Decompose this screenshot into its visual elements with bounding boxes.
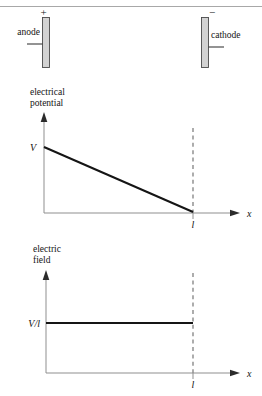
- potential-ytick-label-V: V: [30, 142, 38, 153]
- anode-polarity-sign: +: [40, 6, 46, 18]
- field-xaxis-label: x: [246, 368, 252, 379]
- cathode-label: cathode: [211, 30, 241, 40]
- diagram-canvas: + anode − cathode electrical potential: [0, 0, 262, 396]
- potential-y-axis-arrowhead: [41, 112, 48, 122]
- potential-chart: electrical potential V l x: [30, 87, 252, 230]
- anode-plate: [43, 18, 50, 68]
- potential-axis-title-line1: electrical: [30, 87, 65, 97]
- field-axis-title-line2: field: [33, 255, 51, 265]
- field-xtick-label-l: l: [192, 379, 195, 390]
- field-x-axis-arrowhead: [230, 370, 240, 377]
- field-axis-title-line1: electric: [33, 244, 61, 254]
- potential-xaxis-label: x: [246, 208, 252, 219]
- field-chart: electric field V/l l x: [28, 244, 252, 390]
- anode-label: anode: [17, 27, 40, 37]
- field-ytick-label-V-over-l: V/l: [28, 318, 40, 329]
- potential-axis-title-line2: potential: [30, 98, 64, 108]
- potential-xtick-label-l: l: [192, 219, 195, 230]
- cathode-polarity-sign: −: [209, 6, 215, 18]
- cathode-plate: [202, 18, 209, 68]
- field-y-axis-arrowhead: [43, 270, 50, 280]
- potential-data-line: [44, 147, 193, 212]
- potential-x-axis-arrowhead: [230, 210, 240, 217]
- electrode-assembly: [27, 18, 224, 68]
- figure-container: + anode − cathode electrical potential: [0, 0, 262, 396]
